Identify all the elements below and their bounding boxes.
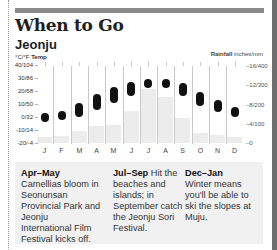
dotted-margin-rule xyxy=(8,0,9,250)
temp-tick-label: -10/14 – xyxy=(12,127,38,133)
page-title: When to Go xyxy=(15,15,124,35)
temp-tick-label: 0/32 – xyxy=(12,114,38,120)
note-text: Winter means you'll be able to ski the s… xyxy=(185,179,251,222)
temp-axis-units: °C/°F xyxy=(15,54,29,60)
temperature-range-marker xyxy=(58,111,66,120)
note-apr-may: Apr–May Camellias bloom in Seonunsan Pro… xyxy=(21,168,101,245)
temperature-range-marker xyxy=(144,79,152,88)
rainfall-bar xyxy=(193,133,208,143)
rainfall-tick-label: –8/200 xyxy=(246,102,264,108)
temperature-range-marker xyxy=(162,79,170,88)
rainfall-bar xyxy=(175,118,190,143)
month-label: J xyxy=(123,147,140,154)
column-tick xyxy=(79,62,80,66)
temp-tick-label: 20/68 – xyxy=(12,88,38,94)
temperature-range-marker xyxy=(179,83,187,96)
month-label: O xyxy=(192,147,209,154)
temperature-range-marker xyxy=(231,107,239,117)
column-tick xyxy=(114,62,115,66)
column-tick xyxy=(235,62,236,66)
column-divider xyxy=(226,66,227,144)
column-tick xyxy=(200,62,201,66)
temp-tick-label: -20/-4 – xyxy=(12,140,38,146)
month-label: D xyxy=(226,147,243,154)
column-tick xyxy=(62,62,63,66)
column-tick xyxy=(218,62,219,66)
month-label: M xyxy=(105,147,122,154)
month-label: J xyxy=(140,147,157,154)
rainfall-bar xyxy=(210,135,225,143)
note-period: Dec–Jan xyxy=(185,168,223,178)
rainfall-bar xyxy=(141,89,156,143)
rainfall-tick-label: –0 xyxy=(246,140,253,146)
temperature-range-marker xyxy=(75,103,83,117)
temperature-range-marker xyxy=(196,92,204,106)
rainfall-bar xyxy=(158,97,173,143)
month-label: A xyxy=(88,147,105,154)
rainfall-bar xyxy=(124,111,139,143)
temperature-range-marker xyxy=(110,87,118,103)
rainfall-bar xyxy=(54,136,69,143)
temp-tick-label: 30/86 – xyxy=(12,75,38,81)
month-label: J xyxy=(36,147,53,154)
column-tick xyxy=(131,62,132,66)
column-divider xyxy=(209,66,210,144)
climate-chart xyxy=(36,62,243,144)
temperature-range-marker xyxy=(127,82,135,96)
month-label: N xyxy=(209,147,226,154)
column-divider xyxy=(53,66,54,144)
rainfall-axis-units: inches/mm xyxy=(234,51,263,57)
travel-notes-panel: Apr–May Camellias bloom in Seonunsan Pro… xyxy=(15,162,263,244)
rainfall-bar xyxy=(37,137,52,143)
temp-axis-label: °C/°F Temp xyxy=(15,54,47,60)
column-tick xyxy=(97,62,98,66)
note-text: Camellias bloom in Seonunsan Provincial … xyxy=(21,179,100,244)
note-period: Jul–Sep xyxy=(113,168,148,178)
rainfall-tick-label: –4/100 xyxy=(246,121,264,127)
rainfall-tick-label: –16/400 xyxy=(246,63,268,69)
right-edge-rule xyxy=(272,0,277,250)
rainfall-bar xyxy=(72,131,87,143)
temperature-range-marker xyxy=(214,100,222,112)
note-period: Apr–May xyxy=(21,168,60,178)
month-label: A xyxy=(157,147,174,154)
column-tick xyxy=(45,62,46,66)
temp-tick-label: 40/104 – xyxy=(12,62,38,68)
rainfall-bar xyxy=(227,137,242,143)
rainfall-bar xyxy=(106,125,121,143)
temperature-range-marker xyxy=(41,113,49,122)
temp-tick-label: 10/50 – xyxy=(12,101,38,107)
note-jul-sep: Jul–Sep Hit the beaches and islands; in … xyxy=(113,168,193,234)
column-tick xyxy=(183,62,184,66)
temp-axis-name: Temp xyxy=(31,54,47,60)
rainfall-bar xyxy=(89,126,104,143)
column-tick xyxy=(148,62,149,66)
temperature-range-marker xyxy=(93,94,101,110)
month-label: S xyxy=(174,147,191,154)
city-subtitle: Jeonju xyxy=(15,37,57,52)
rainfall-tick-label: –12/300 xyxy=(246,82,268,88)
header-bar xyxy=(15,8,264,13)
rainfall-axis-label: Rainfall inches/mm xyxy=(211,51,263,57)
month-label: M xyxy=(71,147,88,154)
note-dec-jan: Dec–Jan Winter means you'll be able to s… xyxy=(185,168,251,223)
column-tick xyxy=(166,62,167,66)
rainfall-axis-name: Rainfall xyxy=(211,51,233,57)
month-label: F xyxy=(53,147,70,154)
